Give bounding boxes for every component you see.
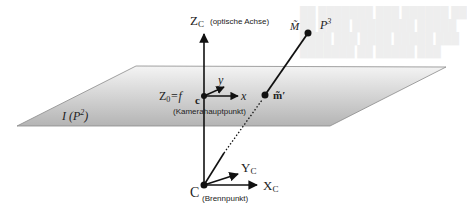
image-point-label: m̃′: [273, 89, 285, 101]
yc-axis-label: YC: [241, 160, 256, 176]
world-space-label: P3: [319, 17, 331, 32]
principal-point-note: (Kamerahauptpunkt): [173, 107, 246, 116]
zc-axis-label: ZC: [190, 13, 204, 29]
image-point-dot: [262, 92, 269, 99]
world-point-label: M̃: [289, 20, 300, 32]
y-axis-label: y: [217, 73, 224, 87]
principal-point-label: c: [195, 94, 200, 106]
xc-axis-label: XC: [263, 178, 278, 194]
focal-length-label: Z0=f: [159, 89, 183, 104]
camera-center-label: C: [190, 185, 199, 200]
world-point-dot: [305, 30, 312, 37]
optical-axis-note: (optische Achse): [210, 17, 269, 26]
image-plane-label: I (P2): [61, 108, 88, 123]
camera-center-note: (Brennpunkt): [202, 194, 249, 203]
camera-center-dot: [201, 182, 208, 189]
principal-point-dot: [201, 93, 207, 99]
x-axis-label: x: [240, 89, 247, 103]
